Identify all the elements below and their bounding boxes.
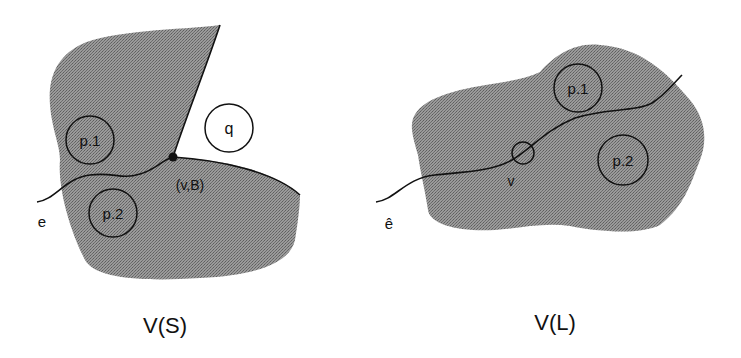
region-p2-label-vl: p.2 bbox=[613, 152, 634, 169]
caption-vl: V(L) bbox=[534, 310, 576, 335]
edge-hat-label: ê bbox=[385, 215, 393, 232]
vertex-v-label: v bbox=[508, 173, 515, 189]
shaded-region-vl bbox=[412, 45, 704, 232]
figure-vs: p.1 p.2 q (v,B) e V(S) bbox=[37, 25, 300, 338]
edge-label: e bbox=[38, 213, 46, 230]
vertex-label: (v,B) bbox=[176, 177, 205, 193]
caption-vs: V(S) bbox=[143, 313, 187, 338]
vertex-dot bbox=[169, 153, 178, 162]
diagram-canvas: p.1 p.2 q (v,B) e V(S) v p.1 p.2 ê V(L) bbox=[0, 0, 741, 358]
region-p1-label-vl: p.1 bbox=[568, 80, 589, 97]
region-p2-label: p.2 bbox=[103, 205, 124, 222]
region-q-label: q bbox=[225, 120, 234, 137]
figure-vl: v p.1 p.2 ê V(L) bbox=[376, 45, 704, 335]
region-p1-label: p.1 bbox=[80, 132, 101, 149]
